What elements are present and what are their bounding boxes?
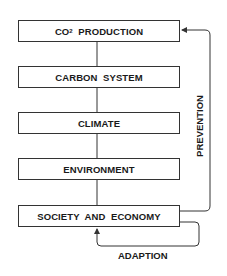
co2-label: CO <box>55 26 69 37</box>
production-label: PRODUCTION <box>73 26 143 37</box>
box-carbon-system: CARBON SYSTEM <box>18 66 180 88</box>
box-climate: CLIMATE <box>18 112 180 134</box>
box-co2-production: CO2 PRODUCTION <box>18 20 180 42</box>
prevention-label: PREVENTION <box>194 95 205 157</box>
box-society-economy: SOCIETY AND ECONOMY <box>18 205 180 227</box>
adaption-label: ADAPTION <box>118 250 168 261</box>
box-environment: ENVIRONMENT <box>18 158 180 180</box>
